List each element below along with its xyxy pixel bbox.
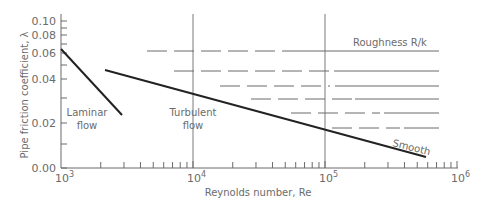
turbulent-label-line2: flow — [183, 120, 204, 131]
x-tick-label: 106 — [451, 170, 470, 185]
y-minor-ticks — [61, 28, 67, 144]
x-tick-labels: 103104105106 — [55, 170, 470, 185]
roughness-label: Roughness R/k — [353, 37, 427, 48]
x-tick-label: 103 — [55, 170, 74, 185]
grid-lines — [193, 14, 325, 168]
y-tick-labels: 0.100.080.060.040.020.00 — [32, 15, 57, 175]
smooth-label: Smooth — [392, 137, 432, 157]
y-tick-label: 0.08 — [32, 29, 57, 42]
y-tick-label: 0.10 — [32, 15, 57, 28]
laminar-line — [61, 49, 122, 115]
y-ticks — [61, 21, 67, 168]
x-minor-ticks — [101, 161, 457, 168]
turbulent-label-line1: Turbulent — [169, 107, 217, 118]
x-axis-label: Reynolds number, Re — [205, 187, 312, 198]
y-tick-label: 0.06 — [32, 47, 57, 60]
laminar-label-line2: flow — [77, 120, 98, 131]
y-tick-label: 0.04 — [32, 73, 57, 86]
y-axis-label: Pipe friction coefficient, λ — [19, 31, 30, 158]
y-tick-label: 0.00 — [32, 162, 57, 175]
x-tick-label: 104 — [187, 170, 206, 185]
friction-chart: 0.100.080.060.040.020.00 103104105106 Ro… — [0, 0, 487, 207]
laminar-label-line1: Laminar — [67, 107, 109, 118]
y-tick-label: 0.02 — [32, 117, 57, 130]
x-tick-label: 105 — [319, 170, 338, 185]
